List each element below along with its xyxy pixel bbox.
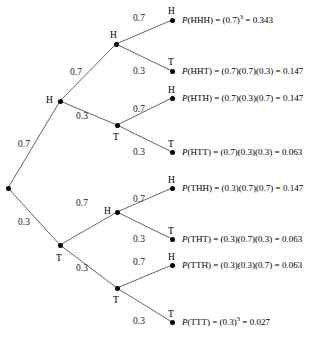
- node-tt: [115, 286, 120, 291]
- leaf-hth-label: H: [168, 86, 175, 96]
- leaf-thh-outcome-text: P(THH) = (0.3)(0.7)(0.7) = 0.147: [182, 184, 303, 193]
- leaf-tht-branch-probability: 0.3: [133, 235, 145, 245]
- leaf-ttt: [170, 320, 175, 325]
- root-node: [6, 186, 11, 191]
- leaf-hth: [170, 96, 175, 101]
- node-ht-label: T: [113, 133, 119, 143]
- leaf-thh: [170, 186, 175, 191]
- node-hh-branch-probability: 0.7: [70, 68, 82, 78]
- node-tt-label: T: [113, 296, 119, 306]
- leaf-hhh-label: H: [168, 7, 175, 17]
- edge-t-th: [60, 212, 117, 245]
- node-tt-branch-probability: 0.3: [76, 264, 88, 274]
- node-t-label: T: [56, 254, 62, 264]
- node-th-label: H: [104, 207, 111, 217]
- leaf-tht: [170, 237, 175, 242]
- leaf-tth-branch-probability: 0.7: [133, 258, 145, 268]
- node-h-label: H: [46, 96, 53, 106]
- node-th-branch-probability: 0.7: [76, 199, 88, 209]
- leaf-tht-label: T: [168, 227, 174, 237]
- edge-hh-hhh: [116, 20, 172, 44]
- leaf-ttt-label: T: [168, 310, 174, 320]
- node-t-branch-probability: 0.3: [18, 218, 30, 228]
- probability-tree-diagram: H0.7T0.3H0.7T0.3H0.7T0.3H0.7T0.3H0.7T0.3…: [0, 0, 325, 337]
- edge-h-ht: [60, 101, 117, 125]
- leaf-tht-outcome-text: P(THT) = (0.3)(0.7)(0.3) = 0.063: [182, 235, 302, 244]
- leaf-hhh-branch-probability: 0.7: [133, 14, 145, 24]
- leaf-tth-label: H: [168, 253, 175, 263]
- leaf-tth-outcome-text: P(TTH) = (0.3)(0.3)(0.7) = 0.063: [182, 261, 302, 270]
- node-t: [58, 243, 63, 248]
- leaf-htt-label: T: [168, 140, 174, 150]
- leaf-hht-branch-probability: 0.3: [133, 67, 145, 77]
- edge-tt-tth: [117, 265, 172, 288]
- node-hh: [114, 42, 119, 47]
- leaf-htt-branch-probability: 0.3: [133, 148, 145, 158]
- leaf-hhh: [170, 18, 175, 23]
- leaf-hth-outcome-text: P(HTH) = (0.7)(0.3)(0.7) = 0.147: [182, 94, 303, 103]
- edge-root-t: [8, 188, 60, 245]
- leaf-hth-branch-probability: 0.7: [133, 105, 145, 115]
- node-h-branch-probability: 0.7: [18, 140, 30, 150]
- leaf-ttt-branch-probability: 0.3: [133, 317, 145, 327]
- leaf-hht-outcome-text: P(HHT) = (0.7)(0.7)(0.3) = 0.147: [182, 67, 303, 76]
- leaf-thh-branch-probability: 0.7: [133, 195, 145, 205]
- leaf-hht-label: T: [168, 58, 174, 68]
- leaf-htt-outcome-text: P(HTT) = (0.7)(0.3)(0.3) = 0.063: [182, 148, 302, 157]
- leaf-thh-label: H: [168, 176, 175, 186]
- tree-edge-layer: [0, 0, 325, 337]
- leaf-ttt-outcome-text: P(TTT) = (0.3)3 = 0.027: [182, 318, 270, 327]
- node-ht: [115, 123, 120, 128]
- edge-t-tt: [60, 245, 117, 288]
- edge-root-h: [8, 101, 60, 188]
- leaf-tth: [170, 263, 175, 268]
- leaf-hht: [170, 69, 175, 74]
- node-h: [58, 99, 63, 104]
- node-ht-branch-probability: 0.3: [76, 112, 88, 122]
- node-th: [115, 210, 120, 215]
- leaf-hhh-outcome-text: P(HHH) = (0.7)3 = 0.343: [182, 16, 273, 25]
- leaf-htt: [170, 150, 175, 155]
- node-hh-label: H: [110, 31, 117, 41]
- edge-h-hh: [60, 44, 116, 101]
